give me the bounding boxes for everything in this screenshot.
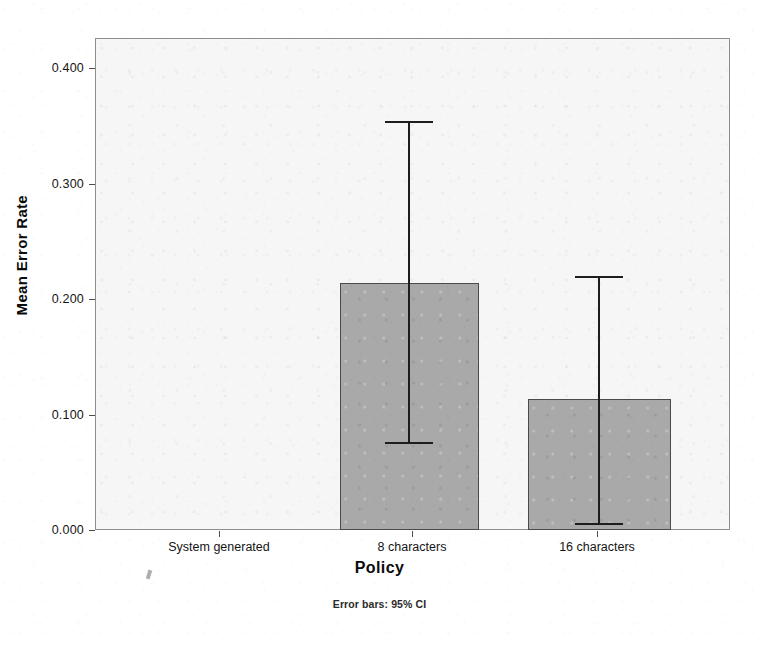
y-tick-label-0300: 0.300 (28, 177, 84, 191)
x-tick-label-8-characters: 8 characters (332, 540, 492, 554)
error-bar-lower-cap-8-characters (385, 442, 433, 444)
x-tick-label-16-characters: 16 characters (517, 540, 677, 554)
error-bar-caption: Error bars: 95% CI (0, 598, 759, 610)
x-tick-mark-16-characters (597, 531, 598, 537)
y-tick-mark-0100 (89, 415, 95, 416)
error-bar-stem-16-characters (598, 276, 600, 525)
y-tick-mark-0300 (89, 184, 95, 185)
y-tick-mark-0200 (89, 299, 95, 300)
error-bar-stem-8-characters (408, 121, 410, 443)
plot-area (95, 38, 730, 530)
y-tick-label-0400: 0.400 (28, 61, 84, 75)
y-tick-label-0000: 0.000 (28, 523, 84, 537)
y-tick-mark-0000 (89, 530, 95, 531)
x-axis-title: Policy (0, 559, 759, 577)
y-tick-mark-0400 (89, 68, 95, 69)
error-bar-lower-cap-16-characters (575, 523, 623, 525)
x-tick-mark-system-generated (219, 531, 220, 537)
error-bar-upper-cap-16-characters (575, 276, 623, 278)
x-tick-mark-8-characters (412, 531, 413, 537)
chart-figure: 0.400 0.300 0.200 0.100 0.000 System gen… (0, 0, 759, 649)
x-tick-label-system-generated: System generated (139, 540, 299, 554)
error-bar-upper-cap-8-characters (385, 121, 433, 123)
y-tick-label-0100: 0.100 (28, 408, 84, 422)
y-axis-title: Mean Error Rate (13, 195, 35, 315)
y-tick-label-0200: 0.200 (28, 292, 84, 306)
